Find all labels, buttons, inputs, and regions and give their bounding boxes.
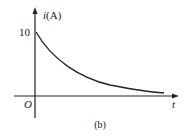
current-decay-curve [36, 32, 164, 93]
decay-chart: i(A) 10 O t (b) [0, 0, 189, 138]
figure-caption: (b) [94, 119, 106, 131]
origin-label: O [24, 98, 32, 110]
y-axis-label: i(A) [43, 9, 62, 22]
y-tick-10: 10 [19, 26, 31, 38]
x-axis-label: t [172, 98, 176, 110]
y-axis-arrow-icon [33, 7, 38, 14]
